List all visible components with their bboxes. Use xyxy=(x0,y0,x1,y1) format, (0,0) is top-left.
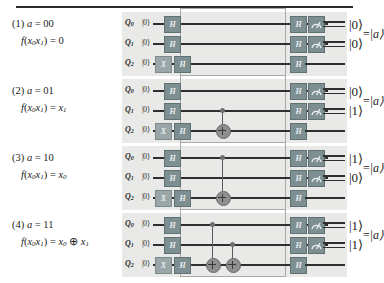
hadamard-gate-post[interactable]: H xyxy=(290,150,307,167)
output-equals-a: =|a⟩ xyxy=(363,226,384,245)
circuit-row: (3) a = 10f(x0x1) = x0Q0|0⟩HHQ1|0⟩HHQ2|0… xyxy=(0,146,369,213)
hadamard-gate-post[interactable]: H xyxy=(290,103,307,120)
circuit-panel: Q0|0⟩HHQ1|0⟩HHQ2|0⟩XHH xyxy=(122,213,347,277)
cnot-target-q2 xyxy=(206,258,221,273)
classical-double-wire xyxy=(323,175,345,181)
hadamard-gate-pre[interactable]: H xyxy=(174,190,191,207)
hadamard-gate-pre[interactable]: H xyxy=(174,257,191,274)
cnot-target-q2 xyxy=(226,258,241,273)
classical-double-wire xyxy=(323,222,345,228)
circuit-row: (1) a = 00f(x0x1) = 0Q0|0⟩HHQ1|0⟩HHQ2|0⟩… xyxy=(0,12,369,79)
wire-q2-tail xyxy=(305,264,345,266)
cnot-target-q2 xyxy=(216,191,231,206)
output-ket-q0: |0⟩ xyxy=(349,15,363,34)
hadamard-gate-post[interactable]: H xyxy=(290,217,307,234)
qubit-line-q1: Q1|0⟩HH xyxy=(122,34,347,54)
row-index: (1) xyxy=(12,18,27,29)
classical-double-wire xyxy=(323,242,345,248)
row-caption: (1) a = 00f(x0x1) = 0 xyxy=(12,16,122,51)
hadamard-gate-pre[interactable]: H xyxy=(164,103,181,120)
output-ket-q0: |0⟩ xyxy=(349,82,363,101)
input-ket-q1: |0⟩ xyxy=(142,172,149,181)
row-a-label: (3) a = 10 xyxy=(12,150,122,165)
qubit-line-q0: Q0|0⟩HH xyxy=(122,81,347,101)
circuit-panel: Q0|0⟩HHQ1|0⟩HHQ2|0⟩XHH xyxy=(122,79,347,143)
qubit-label-q0: Q0 xyxy=(125,18,134,27)
circuit-panel: Q0|0⟩HHQ1|0⟩HHQ2|0⟩XHH xyxy=(122,12,347,76)
classical-double-wire xyxy=(323,88,345,94)
hadamard-gate-post[interactable]: H xyxy=(290,83,307,100)
qubit-label-q0: Q0 xyxy=(125,219,134,228)
cnot-target-q2 xyxy=(216,124,231,139)
hadamard-gate-pre[interactable]: H xyxy=(164,150,181,167)
cnot-control-dot-q0 xyxy=(220,155,225,160)
hadamard-gate-pre[interactable]: H xyxy=(164,170,181,187)
qubit-label-q2: Q2 xyxy=(125,58,134,67)
pauli-x-gate[interactable]: X xyxy=(155,257,172,274)
output-ket-q0: |1⟩ xyxy=(349,149,363,168)
input-ket-q0: |0⟩ xyxy=(142,18,149,27)
qubit-line-q0: Q0|0⟩HH xyxy=(122,215,347,235)
wire-q2-tail xyxy=(305,197,345,199)
row-index: (3) xyxy=(12,152,27,163)
hadamard-gate-pre[interactable]: H xyxy=(164,83,181,100)
classical-double-wire xyxy=(323,41,345,47)
output-equals-a: =|a⟩ xyxy=(363,159,384,178)
hadamard-gate-post[interactable]: H xyxy=(290,16,307,33)
input-ket-q2: |0⟩ xyxy=(142,58,149,67)
qubit-label-q1: Q1 xyxy=(125,239,134,248)
qubit-line-q0: Q0|0⟩HH xyxy=(122,14,347,34)
input-ket-q0: |0⟩ xyxy=(142,219,149,228)
wire-q2-tail xyxy=(305,130,345,132)
qubit-label-q1: Q1 xyxy=(125,105,134,114)
qubit-line-q2: Q2|0⟩XHH xyxy=(122,121,347,141)
input-ket-q2: |0⟩ xyxy=(142,192,149,201)
output-ket-q1: |0⟩ xyxy=(349,34,363,53)
output-equals-a: =|a⟩ xyxy=(363,92,384,111)
pauli-x-gate[interactable]: X xyxy=(155,56,172,73)
input-ket-q0: |0⟩ xyxy=(142,85,149,94)
hadamard-gate-post[interactable]: H xyxy=(290,237,307,254)
cnot-control-dot-q0 xyxy=(210,222,215,227)
classical-double-wire xyxy=(323,108,345,114)
input-ket-q0: |0⟩ xyxy=(142,152,149,161)
qubit-line-q1: Q1|0⟩HH xyxy=(122,235,347,255)
input-ket-q1: |0⟩ xyxy=(142,38,149,47)
circuit-rows-container: (1) a = 00f(x0x1) = 0Q0|0⟩HHQ1|0⟩HHQ2|0⟩… xyxy=(0,12,369,280)
row-f-label: f(x0x1) = x1 xyxy=(12,100,122,118)
hadamard-gate-pre[interactable]: H xyxy=(174,123,191,140)
output-equals-a: =|a⟩ xyxy=(363,25,384,44)
output-ket-q1: |1⟩ xyxy=(349,101,363,120)
row-a-label: (4) a = 11 xyxy=(12,217,122,232)
pauli-x-gate[interactable]: X xyxy=(155,190,172,207)
cnot-control-dot-q1 xyxy=(230,242,235,247)
circuit-row: (4) a = 11f(x0x1) = x0 ⊕ x1Q0|0⟩HHQ1|0⟩H… xyxy=(0,213,369,280)
hadamard-gate-pre[interactable]: H xyxy=(174,56,191,73)
output-ket-q1: |1⟩ xyxy=(349,235,363,254)
qubit-label-q1: Q1 xyxy=(125,38,134,47)
row-index: (4) xyxy=(12,219,27,230)
hadamard-gate-post[interactable]: H xyxy=(290,36,307,53)
input-ket-q1: |0⟩ xyxy=(142,105,149,114)
pauli-x-gate[interactable]: X xyxy=(155,123,172,140)
row-caption: (3) a = 10f(x0x1) = x0 xyxy=(12,150,122,185)
qubit-line-q2: Q2|0⟩XHH xyxy=(122,188,347,208)
qubit-label-q0: Q0 xyxy=(125,152,134,161)
hadamard-gate-pre[interactable]: H xyxy=(164,237,181,254)
qubit-line-q1: Q1|0⟩HH xyxy=(122,101,347,121)
row-f-label: f(x0x1) = 0 xyxy=(12,33,122,51)
qubit-line-q2: Q2|0⟩XHH xyxy=(122,54,347,74)
row-f-label: f(x0x1) = x0 xyxy=(12,167,122,185)
row-a-label: (1) a = 00 xyxy=(12,16,122,31)
hadamard-gate-pre[interactable]: H xyxy=(164,16,181,33)
row-a-label: (2) a = 01 xyxy=(12,83,122,98)
hadamard-gate-pre[interactable]: H xyxy=(164,217,181,234)
hadamard-gate-pre[interactable]: H xyxy=(164,36,181,53)
qubit-line-q0: Q0|0⟩HH xyxy=(122,148,347,168)
circuit-row: (2) a = 01f(x0x1) = x1Q0|0⟩HHQ1|0⟩HHQ2|0… xyxy=(0,79,369,146)
wire-q2-tail xyxy=(305,63,345,65)
input-ket-q1: |0⟩ xyxy=(142,239,149,248)
input-ket-q2: |0⟩ xyxy=(142,259,149,268)
qubit-label-q0: Q0 xyxy=(125,85,134,94)
hadamard-gate-post[interactable]: H xyxy=(290,170,307,187)
